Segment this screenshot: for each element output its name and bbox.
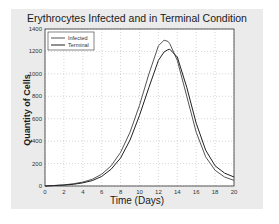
legend-label-infected: Infected xyxy=(68,35,88,41)
y-tick-label: 1000 xyxy=(29,71,43,77)
y-tick-label: 0 xyxy=(39,183,43,189)
x-tick-label: 8 xyxy=(119,189,123,195)
x-tick-label: 6 xyxy=(100,189,104,195)
x-tick-label: 0 xyxy=(43,189,47,195)
x-tick-label: 12 xyxy=(155,189,162,195)
x-tick-label: 14 xyxy=(174,189,181,195)
legend-label-terminal: Terminal xyxy=(68,42,89,48)
x-tick-label: 16 xyxy=(193,189,200,195)
y-tick-label: 1200 xyxy=(29,48,43,54)
x-tick-label: 10 xyxy=(136,189,143,195)
chart-figure: Erythrocytes Infected and in Terminal Co… xyxy=(11,9,263,209)
y-tick-label: 1400 xyxy=(29,26,43,32)
x-tick-label: 20 xyxy=(231,189,238,195)
x-tick-label: 4 xyxy=(81,189,85,195)
y-tick-label: 800 xyxy=(32,93,43,99)
y-tick-label: 200 xyxy=(32,161,43,167)
x-tick-label: 18 xyxy=(212,189,219,195)
y-tick-label: 600 xyxy=(32,116,43,122)
y-tick-label: 400 xyxy=(32,138,43,144)
plot-area: 0246810121416182002004006008001000120014… xyxy=(11,9,263,209)
x-tick-label: 2 xyxy=(62,189,66,195)
